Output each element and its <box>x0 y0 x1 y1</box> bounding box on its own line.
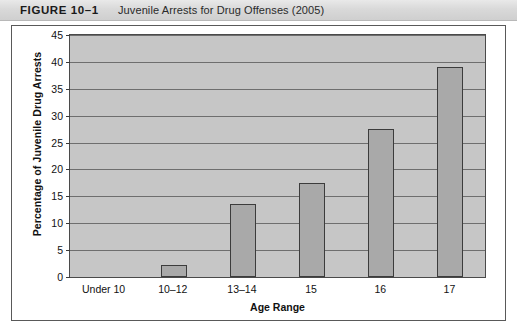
y-axis-tick-mark <box>66 89 70 90</box>
gridline <box>70 62 485 63</box>
y-axis-tick-label: 30 <box>51 110 63 122</box>
figure-header-band: FIGURE 10–1 Juvenile Arrests for Drug Of… <box>0 0 517 21</box>
y-axis-tick-label: 25 <box>51 137 63 149</box>
y-axis-tick-label: 40 <box>51 56 63 68</box>
y-axis-tick-mark <box>66 35 70 36</box>
y-axis-tick-mark <box>66 223 70 224</box>
gridline <box>70 143 485 144</box>
x-axis-tick-label: 13–14 <box>227 283 256 295</box>
y-axis-tick-label: 10 <box>51 217 63 229</box>
y-axis-tick-label: 0 <box>57 271 63 283</box>
y-axis-title: Percentage of Juvenile Drug Arrests <box>31 44 43 244</box>
gridline <box>70 250 485 251</box>
gridline <box>70 89 485 90</box>
y-axis-tick-mark <box>66 196 70 197</box>
chart-container: Percentage of Juvenile Drug Arrests 0510… <box>11 25 506 321</box>
y-axis-tick-label: 5 <box>57 244 63 256</box>
bar <box>230 204 256 277</box>
y-axis-tick-label: 35 <box>51 83 63 95</box>
x-axis-tick-label: 16 <box>374 283 386 295</box>
x-axis-tick-label: 15 <box>305 283 317 295</box>
figure-caption-title: Juvenile Arrests for Drug Offenses (2005… <box>118 4 324 16</box>
figure-number-label: FIGURE 10–1 <box>20 4 99 16</box>
plot-area: 051015202530354045 <box>69 34 486 278</box>
x-axis-tick-label: 17 <box>444 283 456 295</box>
bar <box>368 129 394 277</box>
gridline <box>70 223 485 224</box>
y-axis-tick-label: 20 <box>51 163 63 175</box>
gridline <box>70 196 485 197</box>
x-axis-tick-label: Under 10 <box>82 283 125 295</box>
y-axis-tick-mark <box>66 277 70 278</box>
y-axis-tick-mark <box>66 143 70 144</box>
x-axis-title: Age Range <box>69 301 486 313</box>
y-axis-tick-mark <box>66 169 70 170</box>
y-axis-tick-mark <box>66 62 70 63</box>
bar <box>437 67 463 277</box>
y-axis-tick-mark <box>66 116 70 117</box>
y-axis-tick-label: 15 <box>51 190 63 202</box>
y-axis-tick-mark <box>66 250 70 251</box>
gridline <box>70 169 485 170</box>
bar <box>299 183 325 277</box>
gridline <box>70 116 485 117</box>
x-axis-tick-label: 10–12 <box>158 283 187 295</box>
bar <box>161 265 187 277</box>
y-axis-tick-label: 45 <box>51 29 63 41</box>
gridline <box>70 35 485 36</box>
